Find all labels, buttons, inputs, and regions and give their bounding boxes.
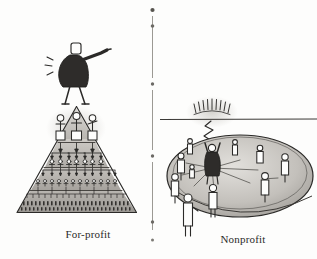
outside-figure-head <box>184 194 192 202</box>
divider-dot <box>151 239 154 242</box>
circle-figure <box>257 145 263 163</box>
divider-dot <box>150 8 154 12</box>
tier1-figure-base <box>56 131 65 140</box>
circle-figure <box>188 139 193 154</box>
central-figure-head <box>208 144 215 151</box>
boss-pointing-hand <box>106 49 111 50</box>
illustration-canvas: For-profit <box>0 0 317 259</box>
tier1-figure-head <box>73 113 80 120</box>
divider-dot <box>151 220 154 223</box>
circle-figure <box>233 140 238 155</box>
nonprofit-caption: Nonprofit <box>220 233 265 245</box>
for-profit-caption: For-profit <box>65 228 110 240</box>
pyramid-tier-3-fill <box>31 167 121 190</box>
horizon-line <box>160 119 317 120</box>
circle-figure <box>190 165 195 178</box>
divider-dot <box>151 82 154 85</box>
divider-dot <box>151 154 154 157</box>
outside-figure-body <box>184 203 193 226</box>
tier1-figure-head <box>57 115 64 122</box>
tier1-figure-head <box>89 115 96 122</box>
boss-head <box>71 43 81 54</box>
tier1-figure-base <box>88 131 97 140</box>
central-figure-body <box>205 152 221 176</box>
tier1-figure-base <box>72 131 82 140</box>
illustration-svg: For-profit <box>0 0 317 259</box>
divider-dot <box>151 24 155 28</box>
